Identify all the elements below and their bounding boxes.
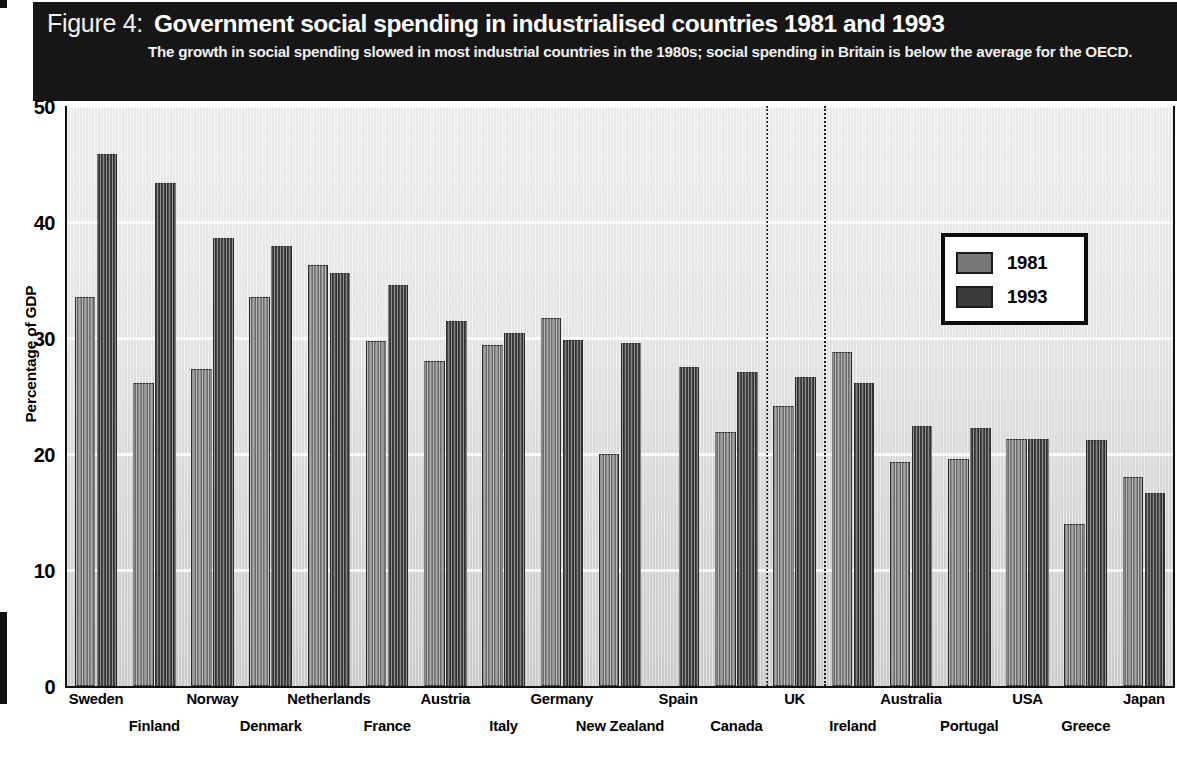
- figure-header-line: Figure 4: Government social spending in …: [47, 9, 1165, 38]
- y-tick-label-0: 0: [44, 676, 55, 699]
- bar-australia-1993: [912, 426, 933, 686]
- bar-france-1981: [366, 341, 387, 686]
- bar-new-zealand-1993: [621, 343, 642, 686]
- x-tick-label-denmark: Denmark: [240, 718, 302, 734]
- bar-finland-1993: [155, 183, 176, 686]
- bar-new-zealand-1981: [599, 454, 620, 686]
- y-tick-label-50: 50: [34, 96, 55, 119]
- legend-item-1993[interactable]: 1993: [956, 280, 1084, 314]
- bar-norway-1981: [191, 369, 212, 686]
- x-tick-label-new-zealand: New Zealand: [576, 718, 664, 734]
- bar-greece-1993: [1086, 440, 1107, 686]
- x-tick-label-finland: Finland: [129, 718, 180, 734]
- y-tick-label-40: 40: [34, 212, 55, 235]
- bar-italy-1993: [504, 333, 525, 686]
- bar-uk-1981: [773, 406, 794, 686]
- bar-netherlands-1981: [308, 265, 329, 686]
- chart-plot-area: 1981 1993: [65, 106, 1175, 688]
- y-axis-title: Percentage of GDP: [22, 244, 40, 464]
- page-title: Government social spending in industrial…: [154, 10, 944, 38]
- x-tick-label-portugal: Portugal: [940, 718, 998, 734]
- x-tick-label-usa: USA: [1012, 691, 1043, 707]
- bar-australia-1981: [890, 462, 911, 686]
- x-tick-label-australia: Australia: [880, 691, 942, 707]
- uk-divider-line-right: [824, 106, 828, 686]
- legend-label-1993: 1993: [1007, 286, 1047, 308]
- chart-legend: 1981 1993: [941, 233, 1088, 325]
- x-tick-label-sweden: Sweden: [69, 691, 124, 707]
- x-tick-label-netherlands: Netherlands: [287, 691, 370, 707]
- x-tick-label-ireland: Ireland: [829, 718, 876, 734]
- x-tick-label-spain: Spain: [659, 691, 698, 707]
- x-tick-label-greece: Greece: [1061, 718, 1110, 734]
- bar-finland-1981: [133, 383, 154, 686]
- bar-greece-1981: [1064, 524, 1085, 686]
- figure-subtitle: The growth in social spending slowed in …: [148, 41, 1158, 63]
- bar-usa-1981: [1006, 439, 1027, 686]
- bar-usa-1993: [1028, 439, 1049, 686]
- bar-france-1993: [388, 285, 409, 686]
- x-tick-label-france: France: [363, 718, 410, 734]
- x-tick-label-uk: UK: [784, 691, 805, 707]
- bar-italy-1981: [482, 345, 503, 686]
- bar-portugal-1993: [970, 428, 991, 686]
- bar-japan-1981: [1123, 477, 1144, 686]
- x-tick-label-austria: Austria: [421, 691, 471, 707]
- uk-divider-line-left: [766, 106, 770, 686]
- bar-spain-1993: [679, 367, 700, 686]
- bar-japan-1993: [1145, 493, 1166, 686]
- bar-netherlands-1993: [330, 273, 351, 686]
- bar-portugal-1981: [948, 459, 969, 686]
- x-tick-label-canada: Canada: [710, 718, 762, 734]
- legend-swatch-1993: [956, 286, 993, 308]
- bar-canada-1993: [737, 372, 758, 686]
- bar-denmark-1981: [249, 297, 270, 686]
- chart-plot-inner: [67, 106, 1173, 686]
- bar-sweden-1993: [97, 154, 118, 686]
- gridline-50: [67, 106, 1173, 108]
- x-tick-label-italy: Italy: [489, 718, 518, 734]
- x-tick-label-japan: Japan: [1123, 691, 1165, 707]
- gridline-40: [67, 221, 1173, 224]
- x-axis: SwedenFinlandNorwayDenmarkNetherlandsFra…: [65, 688, 1175, 758]
- bar-austria-1993: [446, 321, 467, 686]
- bar-austria-1981: [424, 361, 445, 686]
- x-tick-label-germany: Germany: [530, 691, 593, 707]
- bar-ireland-1993: [854, 383, 875, 686]
- page-spine-mark-top: [0, 0, 7, 8]
- bar-uk-1993: [795, 377, 816, 686]
- x-tick-label-norway: Norway: [186, 691, 238, 707]
- figure-number-label: Figure 4:: [47, 9, 143, 38]
- bar-denmark-1993: [271, 246, 292, 686]
- legend-swatch-1981: [956, 252, 993, 274]
- bar-canada-1981: [715, 432, 736, 686]
- bar-germany-1993: [563, 340, 584, 686]
- legend-label-1981: 1981: [1007, 252, 1047, 274]
- legend-item-1981[interactable]: 1981: [956, 246, 1084, 280]
- bar-ireland-1981: [832, 352, 853, 686]
- figure-container: Figure 4: Government social spending in …: [0, 0, 1177, 758]
- figure-header-band: Figure 4: Government social spending in …: [33, 2, 1177, 101]
- y-tick-label-10: 10: [34, 560, 55, 583]
- bar-germany-1981: [541, 318, 562, 686]
- bar-sweden-1981: [75, 297, 96, 686]
- bar-norway-1993: [213, 238, 234, 686]
